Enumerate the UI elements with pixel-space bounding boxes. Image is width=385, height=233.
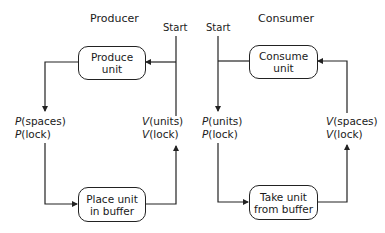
consumer-title: Consumer bbox=[258, 12, 314, 25]
take-unit-line2: from buffer bbox=[254, 203, 313, 215]
produce-unit-line1: Produce bbox=[91, 51, 133, 63]
p-units-op: P(units) bbox=[202, 115, 242, 128]
p-lock-op: P(lock) bbox=[15, 128, 66, 141]
producer-title: Producer bbox=[90, 12, 139, 25]
v-lock-op: V(lock) bbox=[142, 128, 183, 141]
consumer-start-label: Start bbox=[206, 22, 230, 33]
consume-unit-box: Consume unit bbox=[249, 45, 318, 79]
producer-v-operations: V(units) V(lock) bbox=[142, 115, 183, 141]
v-spaces-op: V(spaces) bbox=[326, 115, 378, 128]
place-unit-line1: Place unit bbox=[86, 193, 138, 205]
p-spaces-op: P(spaces) bbox=[15, 115, 66, 128]
place-unit-box: Place unit in buffer bbox=[78, 187, 146, 222]
take-unit-box: Take unit from buffer bbox=[249, 185, 318, 220]
consume-unit-line2: unit bbox=[273, 62, 293, 74]
place-unit-line2: in buffer bbox=[90, 205, 134, 217]
producer-start-label: Start bbox=[163, 22, 187, 33]
v-lock-op: V(lock) bbox=[326, 128, 378, 141]
consumer-p-operations: P(units) P(lock) bbox=[202, 115, 242, 141]
produce-unit-line2: unit bbox=[102, 63, 122, 75]
take-unit-line1: Take unit bbox=[260, 191, 307, 203]
produce-unit-box: Produce unit bbox=[78, 46, 146, 80]
v-units-op: V(units) bbox=[142, 115, 183, 128]
consume-unit-line1: Consume bbox=[259, 50, 308, 62]
consumer-v-operations: V(spaces) V(lock) bbox=[326, 115, 378, 141]
producer-p-operations: P(spaces) P(lock) bbox=[15, 115, 66, 141]
p-lock-op: P(lock) bbox=[202, 128, 242, 141]
